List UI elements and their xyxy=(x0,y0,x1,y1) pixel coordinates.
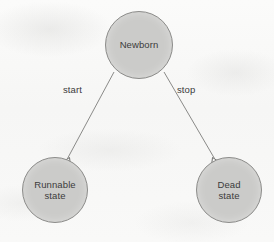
state-node-newborn-label: Newborn xyxy=(120,39,159,51)
state-node-dead-label: Dead state xyxy=(217,179,240,202)
state-node-newborn[interactable]: Newborn xyxy=(105,11,173,79)
edge-label-stop: stop xyxy=(177,84,195,95)
state-node-runnable-label: Runnable state xyxy=(34,179,75,202)
state-diagram: Newborn Runnable state Dead state start … xyxy=(0,0,274,242)
state-node-dead[interactable]: Dead state xyxy=(196,157,262,223)
state-node-runnable[interactable]: Runnable state xyxy=(22,157,88,223)
edge-label-start: start xyxy=(63,84,82,95)
